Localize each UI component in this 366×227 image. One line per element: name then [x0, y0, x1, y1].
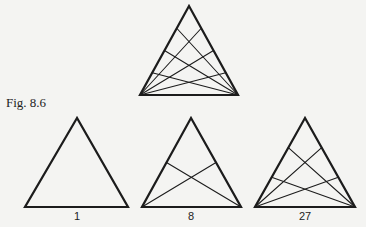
triangle-top — [140, 6, 238, 95]
figure-caption: Fig. 8.6 — [6, 95, 46, 111]
triangle-one — [25, 118, 128, 207]
label-triangle-27: 27 — [299, 210, 311, 222]
triangle-twentyseven — [255, 118, 355, 207]
triangle-eight — [142, 118, 241, 207]
figure-canvas — [0, 0, 366, 227]
label-triangle-1: 1 — [74, 210, 80, 222]
label-triangle-8: 8 — [188, 210, 194, 222]
